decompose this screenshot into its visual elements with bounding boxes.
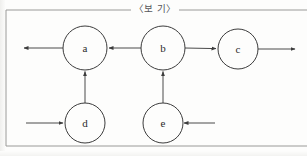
- node-a-label: a: [83, 42, 88, 54]
- diagram-canvas: a b c d e: [0, 0, 307, 156]
- node-d: d: [65, 103, 105, 143]
- node-a: a: [63, 26, 107, 70]
- node-c: c: [218, 29, 258, 69]
- edge-layer: [24, 48, 295, 123]
- figure-caption: 〈보 기〉: [131, 1, 179, 17]
- edge-b-to-c: [185, 48, 216, 49]
- node-c-label: c: [236, 43, 241, 55]
- node-e: e: [143, 103, 183, 143]
- node-e-label: e: [161, 117, 166, 129]
- node-layer: a b c d e: [63, 26, 258, 143]
- node-b: b: [141, 26, 185, 70]
- figure-frame: [6, 10, 307, 146]
- node-b-label: b: [160, 42, 166, 54]
- figure-container: a b c d e 〈보 기〉: [0, 0, 307, 156]
- node-d-label: d: [82, 117, 88, 129]
